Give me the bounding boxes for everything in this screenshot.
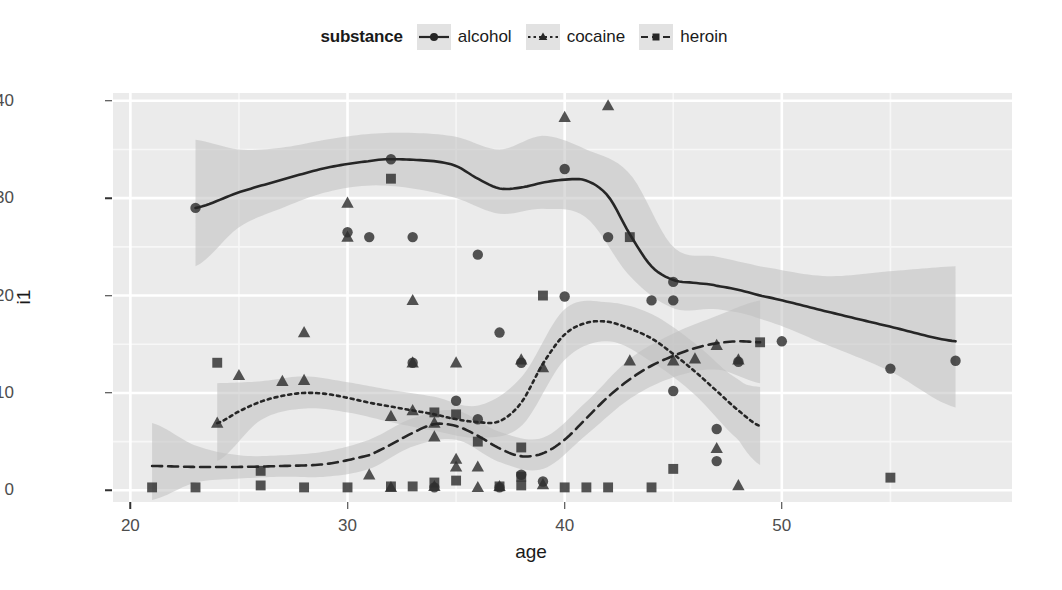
x-tick-label: 50	[772, 516, 791, 536]
x-tick-mark	[130, 502, 132, 509]
data-point-alcohol	[559, 164, 569, 174]
y-tick-mark	[105, 392, 112, 394]
legend-item-heroin[interactable]: heroin	[639, 24, 727, 50]
data-point-alcohol	[777, 336, 787, 346]
data-point-alcohol	[473, 249, 483, 259]
data-point-heroin	[147, 482, 157, 492]
x-tick-label: 40	[555, 516, 574, 536]
data-point-cocaine	[711, 442, 723, 453]
data-point-heroin	[386, 481, 396, 491]
data-point-cocaine	[472, 481, 484, 492]
data-point-heroin	[538, 291, 548, 301]
y-tick-label: 40	[0, 91, 14, 111]
data-point-cocaine	[472, 460, 484, 471]
y-axis-title: i1	[13, 290, 35, 305]
data-point-alcohol	[711, 456, 721, 466]
y-tick-mark	[105, 197, 112, 199]
data-point-heroin	[581, 482, 591, 492]
data-point-heroin	[603, 482, 613, 492]
data-point-cocaine	[233, 369, 245, 380]
y-tick-mark	[105, 490, 112, 492]
data-point-alcohol	[451, 396, 461, 406]
y-tick-label: 10	[0, 383, 14, 403]
data-point-heroin	[386, 174, 396, 184]
data-point-heroin	[885, 473, 895, 483]
legend-label-cocaine: cocaine	[567, 27, 626, 47]
legend-label-heroin: heroin	[680, 27, 727, 47]
data-point-heroin	[256, 481, 266, 491]
data-point-heroin	[408, 481, 418, 491]
data-point-cocaine	[558, 111, 570, 122]
data-point-cocaine	[450, 356, 462, 367]
data-point-heroin	[647, 482, 657, 492]
data-point-heroin	[516, 443, 526, 453]
data-point-alcohol	[364, 232, 374, 242]
legend-item-alcohol[interactable]: alcohol	[417, 24, 512, 50]
x-tick-label: 20	[121, 516, 140, 536]
data-point-heroin	[451, 476, 461, 486]
data-point-heroin	[516, 472, 526, 482]
data-point-alcohol	[668, 386, 678, 396]
data-point-alcohol	[668, 295, 678, 305]
legend-key-cocaine	[526, 24, 560, 50]
data-point-cocaine	[515, 353, 527, 364]
chart-root: substance alcohol cocaine	[0, 0, 1062, 590]
x-tick-mark	[347, 502, 349, 509]
data-point-alcohol	[603, 232, 613, 242]
y-tick-label: 30	[0, 188, 14, 208]
data-point-heroin	[212, 358, 222, 368]
data-point-alcohol	[494, 327, 504, 337]
data-point-heroin	[343, 482, 353, 492]
data-point-alcohol	[407, 232, 417, 242]
data-point-alcohol	[950, 356, 960, 366]
y-tick-mark	[105, 295, 112, 297]
y-tick-mark	[105, 100, 112, 102]
data-point-alcohol	[885, 363, 895, 373]
legend-key-alcohol	[417, 24, 451, 50]
data-point-heroin	[429, 407, 439, 417]
legend-key-heroin	[639, 24, 673, 50]
data-point-heroin	[668, 464, 678, 474]
data-point-heroin	[516, 481, 526, 491]
confidence-ribbon-alcohol	[196, 133, 956, 408]
data-point-heroin	[299, 482, 309, 492]
plot-svg	[113, 93, 1012, 502]
x-tick-mark	[564, 502, 566, 509]
data-point-heroin	[429, 478, 439, 488]
x-tick-mark	[781, 502, 783, 509]
data-point-cocaine	[298, 326, 310, 337]
data-point-heroin	[560, 482, 570, 492]
x-tick-label: 30	[338, 516, 357, 536]
data-point-alcohol	[711, 424, 721, 434]
plot-panel	[113, 93, 1012, 502]
data-point-heroin	[191, 482, 201, 492]
legend: substance alcohol cocaine	[0, 24, 1062, 50]
data-point-heroin	[451, 409, 461, 419]
data-point-heroin	[495, 481, 505, 491]
x-axis-title: age	[0, 541, 1062, 563]
legend-item-cocaine[interactable]: cocaine	[526, 24, 626, 50]
y-tick-label: 20	[0, 286, 14, 306]
data-point-cocaine	[732, 479, 744, 490]
data-point-alcohol	[559, 291, 569, 301]
y-tick-label: 0	[5, 480, 14, 500]
legend-title: substance	[320, 27, 402, 47]
legend-label-alcohol: alcohol	[458, 27, 512, 47]
data-point-alcohol	[646, 295, 656, 305]
